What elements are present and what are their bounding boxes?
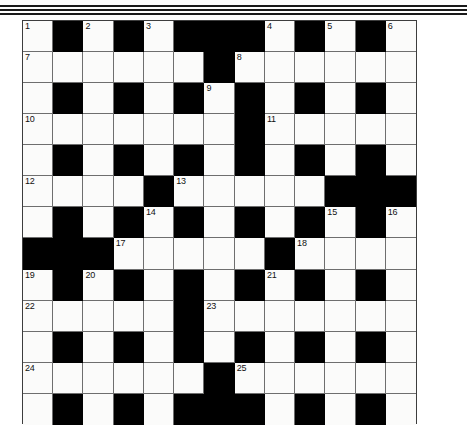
crossword-letter-cell[interactable]: 13 [174, 176, 204, 207]
crossword-letter-cell[interactable] [144, 114, 174, 145]
crossword-letter-cell[interactable]: 10 [23, 114, 53, 145]
crossword-letter-cell[interactable] [356, 363, 386, 394]
crossword-letter-cell[interactable] [386, 301, 416, 332]
crossword-letter-cell[interactable] [53, 363, 83, 394]
crossword-letter-cell[interactable] [174, 114, 204, 145]
crossword-letter-cell[interactable] [356, 52, 386, 83]
crossword-letter-cell[interactable]: 11 [265, 114, 295, 145]
crossword-letter-cell[interactable] [265, 332, 295, 363]
crossword-letter-cell[interactable]: 17 [114, 238, 144, 269]
crossword-letter-cell[interactable]: 1 [23, 21, 53, 52]
crossword-letter-cell[interactable] [235, 238, 265, 269]
crossword-letter-cell[interactable]: 9 [204, 83, 234, 114]
crossword-letter-cell[interactable]: 6 [386, 21, 416, 52]
crossword-letter-cell[interactable] [174, 363, 204, 394]
crossword-letter-cell[interactable] [386, 114, 416, 145]
crossword-letter-cell[interactable] [144, 301, 174, 332]
crossword-letter-cell[interactable] [144, 145, 174, 176]
crossword-letter-cell[interactable]: 8 [235, 52, 265, 83]
crossword-letter-cell[interactable] [204, 332, 234, 363]
crossword-letter-cell[interactable] [325, 145, 355, 176]
crossword-letter-cell[interactable] [114, 114, 144, 145]
crossword-letter-cell[interactable] [386, 332, 416, 363]
crossword-letter-cell[interactable] [174, 52, 204, 83]
crossword-letter-cell[interactable] [23, 207, 53, 238]
crossword-letter-cell[interactable] [265, 52, 295, 83]
crossword-letter-cell[interactable]: 15 [325, 207, 355, 238]
crossword-letter-cell[interactable] [325, 301, 355, 332]
crossword-letter-cell[interactable]: 21 [265, 270, 295, 301]
crossword-letter-cell[interactable] [325, 270, 355, 301]
crossword-letter-cell[interactable] [144, 270, 174, 301]
crossword-letter-cell[interactable] [53, 114, 83, 145]
crossword-letter-cell[interactable] [265, 363, 295, 394]
crossword-letter-cell[interactable]: 18 [295, 238, 325, 269]
crossword-letter-cell[interactable] [295, 176, 325, 207]
crossword-letter-cell[interactable] [83, 394, 113, 425]
crossword-letter-cell[interactable]: 7 [23, 52, 53, 83]
crossword-letter-cell[interactable] [23, 394, 53, 425]
crossword-letter-cell[interactable]: 25 [235, 363, 265, 394]
crossword-letter-cell[interactable] [83, 114, 113, 145]
crossword-letter-cell[interactable] [83, 363, 113, 394]
crossword-letter-cell[interactable] [53, 301, 83, 332]
crossword-letter-cell[interactable] [325, 394, 355, 425]
crossword-letter-cell[interactable] [386, 363, 416, 394]
crossword-letter-cell[interactable] [295, 52, 325, 83]
crossword-letter-cell[interactable] [204, 114, 234, 145]
crossword-letter-cell[interactable] [204, 176, 234, 207]
crossword-letter-cell[interactable] [265, 394, 295, 425]
crossword-letter-cell[interactable]: 16 [386, 207, 416, 238]
crossword-letter-cell[interactable] [235, 176, 265, 207]
crossword-letter-cell[interactable] [83, 52, 113, 83]
crossword-letter-cell[interactable] [386, 394, 416, 425]
crossword-letter-cell[interactable] [265, 301, 295, 332]
crossword-letter-cell[interactable] [83, 145, 113, 176]
crossword-letter-cell[interactable] [23, 145, 53, 176]
crossword-letter-cell[interactable] [83, 332, 113, 363]
crossword-letter-cell[interactable] [204, 207, 234, 238]
crossword-letter-cell[interactable] [144, 238, 174, 269]
crossword-letter-cell[interactable] [114, 363, 144, 394]
crossword-letter-cell[interactable]: 22 [23, 301, 53, 332]
crossword-letter-cell[interactable] [325, 363, 355, 394]
crossword-letter-cell[interactable] [83, 301, 113, 332]
crossword-letter-cell[interactable]: 2 [83, 21, 113, 52]
crossword-letter-cell[interactable]: 14 [144, 207, 174, 238]
crossword-letter-cell[interactable]: 3 [144, 21, 174, 52]
crossword-letter-cell[interactable] [204, 145, 234, 176]
crossword-letter-cell[interactable] [144, 83, 174, 114]
crossword-letter-cell[interactable] [114, 176, 144, 207]
crossword-letter-cell[interactable] [83, 83, 113, 114]
crossword-letter-cell[interactable] [265, 207, 295, 238]
crossword-letter-cell[interactable] [23, 83, 53, 114]
crossword-grid[interactable]: 1234567891011121314151617181920212223242… [22, 20, 417, 424]
crossword-letter-cell[interactable]: 24 [23, 363, 53, 394]
crossword-letter-cell[interactable] [144, 363, 174, 394]
crossword-letter-cell[interactable] [235, 301, 265, 332]
crossword-letter-cell[interactable] [144, 332, 174, 363]
crossword-letter-cell[interactable] [53, 52, 83, 83]
crossword-letter-cell[interactable]: 23 [204, 301, 234, 332]
crossword-letter-cell[interactable] [265, 83, 295, 114]
crossword-letter-cell[interactable] [386, 52, 416, 83]
crossword-letter-cell[interactable] [144, 394, 174, 425]
crossword-letter-cell[interactable] [204, 238, 234, 269]
crossword-letter-cell[interactable] [386, 145, 416, 176]
crossword-letter-cell[interactable]: 20 [83, 270, 113, 301]
crossword-letter-cell[interactable]: 12 [23, 176, 53, 207]
crossword-letter-cell[interactable] [295, 301, 325, 332]
crossword-letter-cell[interactable] [83, 207, 113, 238]
crossword-letter-cell[interactable] [114, 52, 144, 83]
crossword-letter-cell[interactable] [325, 332, 355, 363]
crossword-letter-cell[interactable] [356, 238, 386, 269]
crossword-letter-cell[interactable] [265, 145, 295, 176]
crossword-letter-cell[interactable]: 5 [325, 21, 355, 52]
crossword-letter-cell[interactable] [386, 238, 416, 269]
crossword-letter-cell[interactable] [386, 83, 416, 114]
crossword-letter-cell[interactable] [325, 238, 355, 269]
crossword-letter-cell[interactable] [204, 270, 234, 301]
crossword-letter-cell[interactable] [386, 270, 416, 301]
crossword-letter-cell[interactable] [144, 52, 174, 83]
crossword-letter-cell[interactable] [325, 114, 355, 145]
